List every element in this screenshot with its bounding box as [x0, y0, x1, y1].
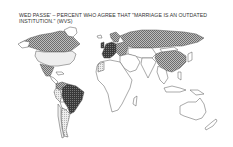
- region-alaska: [18, 41, 30, 48]
- region-uk: [101, 42, 104, 48]
- region-caribbean: [56, 72, 64, 75]
- region-united-states: [35, 51, 76, 66]
- region-australia: [180, 98, 206, 120]
- region-iceland: [97, 35, 102, 38]
- region-papua: [190, 90, 204, 95]
- region-scandinavia: [110, 32, 120, 42]
- region-north-africa-west: [98, 62, 104, 72]
- region-western-europe: [102, 42, 118, 58]
- world-map: [0, 0, 233, 147]
- region-india: [141, 58, 156, 78]
- region-philippines: [178, 72, 181, 80]
- region-peru: [54, 88, 62, 102]
- region-new-zealand: [205, 119, 217, 130]
- region-russia: [120, 30, 204, 48]
- region-madagascar: [133, 96, 137, 106]
- region-indonesia: [164, 86, 186, 92]
- region-central-america: [50, 76, 58, 84]
- region-japan: [188, 52, 192, 62]
